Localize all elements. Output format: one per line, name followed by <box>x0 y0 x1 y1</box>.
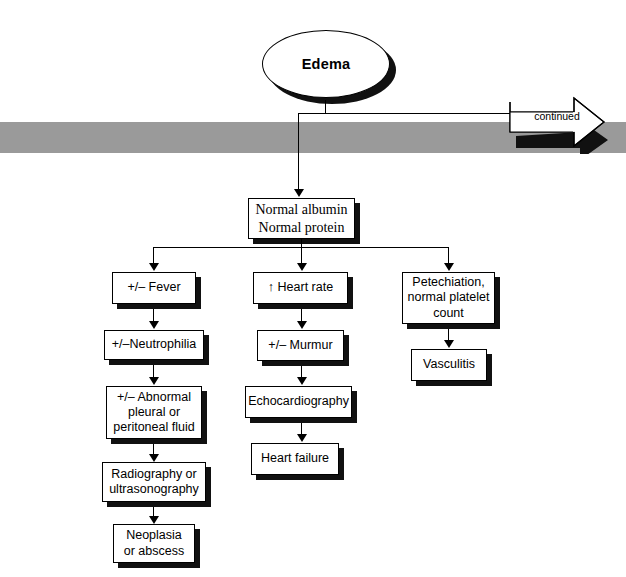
arrowhead-fever <box>149 263 159 271</box>
ellipse-face: Edema <box>262 30 390 98</box>
node-murmur-label: +/– Murmur <box>265 338 335 353</box>
arrowhead-echocardiography <box>297 377 307 385</box>
node-abnormal-fluid-line2: pleural or <box>113 405 194 420</box>
node-abnormal-fluid[interactable]: +/– Abnormal pleural or peritoneal fluid <box>106 386 202 439</box>
arrowhead-neoplasia <box>149 516 159 524</box>
node-vasculitis-label: Vasculitis <box>420 357 478 372</box>
node-fever-label: +/– Fever <box>124 280 183 295</box>
arrowhead-heart-rate <box>297 263 307 271</box>
node-petechiation[interactable]: Petechiation, normal platelet count <box>402 272 495 324</box>
node-echocardiography[interactable]: Echocardiography <box>245 386 352 418</box>
node-neutrophilia[interactable]: +/–Neutrophilia <box>104 330 204 360</box>
box-face: Echocardiography <box>245 386 352 418</box>
node-normal-albumin[interactable]: Normal albumin Normal protein <box>248 198 355 239</box>
connector-edema-stub <box>325 100 326 114</box>
connector-edema-horizontal <box>298 113 511 114</box>
node-fever[interactable]: +/– Fever <box>112 272 196 304</box>
node-heart-rate[interactable]: ↑ Heart rate <box>253 272 348 304</box>
node-normal-albumin-line2: Normal protein <box>255 219 347 236</box>
arrowhead-abnormal-fluid <box>149 377 159 385</box>
node-neutrophilia-label: +/–Neutrophilia <box>109 337 199 352</box>
node-heart-failure[interactable]: Heart failure <box>251 443 339 475</box>
box-face: ↑ Heart rate <box>253 272 348 304</box>
node-petechiation-line1: Petechiation, <box>408 275 490 290</box>
box-face: Vasculitis <box>411 349 487 381</box>
box-face: Heart failure <box>251 443 339 475</box>
arrowhead-murmur <box>297 321 307 329</box>
node-radiography-line1: Radiography or <box>109 467 199 482</box>
box-face: +/– Fever <box>112 272 196 304</box>
node-radiography[interactable]: Radiography or ultrasonography <box>102 462 206 502</box>
box-face: Petechiation, normal platelet count <box>402 272 495 324</box>
node-normal-albumin-line1: Normal albumin <box>255 201 347 218</box>
arrowhead-heart-failure <box>297 434 307 442</box>
node-heart-rate-label: ↑ Heart rate <box>265 280 336 295</box>
continued-arrow[interactable]: continued <box>508 92 626 154</box>
box-face: +/– Murmur <box>257 330 344 361</box>
node-neoplasia[interactable]: Neoplasia or abscess <box>113 524 195 563</box>
node-edema[interactable]: Edema <box>262 30 398 106</box>
node-edema-label: Edema <box>302 56 351 72</box>
box-face: +/– Abnormal pleural or peritoneal fluid <box>106 386 202 439</box>
box-face: Radiography or ultrasonography <box>102 462 206 502</box>
node-murmur[interactable]: +/– Murmur <box>257 330 344 361</box>
node-radiography-line2: ultrasonography <box>109 482 199 497</box>
node-petechiation-line3: count <box>408 306 490 321</box>
node-abnormal-fluid-line1: +/– Abnormal <box>113 390 194 405</box>
node-heart-failure-label: Heart failure <box>258 451 332 466</box>
node-echocardiography-label: Echocardiography <box>245 394 352 409</box>
node-neoplasia-line1: Neoplasia <box>124 528 184 543</box>
node-neoplasia-line2: or abscess <box>124 544 184 559</box>
continued-arrow-graphic <box>508 92 626 154</box>
diagram-canvas: Edema continued Normal albumin Normal pr… <box>0 0 626 577</box>
continued-arrow-label: continued <box>526 110 588 122</box>
box-face: Normal albumin Normal protein <box>248 198 355 239</box>
node-abnormal-fluid-line3: peritoneal fluid <box>113 420 194 435</box>
node-petechiation-line2: normal platelet <box>408 290 490 305</box>
arrowhead-radiography <box>149 454 159 462</box>
node-vasculitis[interactable]: Vasculitis <box>411 349 487 381</box>
connector-edema-to-stem <box>298 113 299 191</box>
box-face: Neoplasia or abscess <box>113 524 195 563</box>
box-face: +/–Neutrophilia <box>104 330 204 360</box>
arrowhead-vasculitis <box>444 340 454 348</box>
arrowhead-to-stem <box>294 189 304 197</box>
arrowhead-neutrophilia <box>149 321 159 329</box>
arrowhead-petechiation <box>444 263 454 271</box>
